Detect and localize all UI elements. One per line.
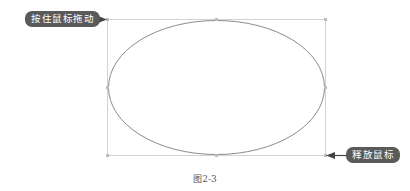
bounding-box-handles [106, 18, 327, 157]
ellipse-shape [109, 21, 325, 155]
end-label: 释放鼠标 [346, 147, 400, 163]
end-arrow-icon [326, 152, 346, 159]
figure-caption: 图2-3 [0, 172, 410, 185]
diagram-canvas [0, 0, 410, 191]
diagram-stage: 按住鼠标拖动 释放鼠标 图2-3 [0, 0, 410, 191]
start-label: 按住鼠标拖动 [25, 11, 100, 27]
